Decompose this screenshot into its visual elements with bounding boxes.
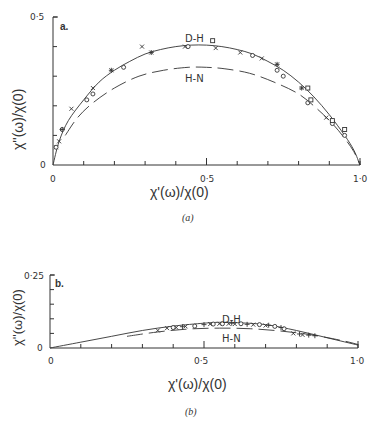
data-point-o	[193, 324, 197, 328]
data-point-s	[343, 127, 347, 131]
panel-b-axes	[50, 275, 358, 348]
panel-a-xlabel: χ'(ω)/χ(0)	[150, 184, 209, 200]
data-point-x	[91, 86, 95, 90]
panel-a-xtick-zero: 0	[50, 174, 56, 184]
panel-a-dh-label: D-H	[185, 33, 204, 44]
data-point-s	[306, 86, 310, 90]
panel-a-caption: (a)	[182, 212, 194, 223]
panel-b-ytick-zero: 0	[37, 343, 43, 353]
panel-a-axes	[53, 17, 360, 165]
panel-a-hn-label: H-N	[185, 73, 204, 84]
panel-b-xlabel: χ'(ω)/χ(0)	[168, 376, 227, 392]
data-point-o	[85, 98, 89, 102]
panel-a-plot: 0·5 0 0 0·5 1·0 a. D-H H-N	[30, 12, 368, 184]
panel-a-xtick-end: 1·0	[353, 174, 368, 184]
data-point-x	[324, 116, 328, 120]
panel-b-caption: (b)	[185, 406, 197, 417]
panel-b-xtick-zero: 0	[48, 356, 54, 366]
panel-b-plot: 0·25 0 0 0·5 1·0 b. D-H H-N	[24, 271, 365, 366]
data-point-+	[245, 322, 250, 327]
data-point-o	[273, 324, 277, 328]
panel-b-xtick-mid: 0·5	[194, 356, 208, 366]
data-point-s	[309, 98, 313, 102]
curve-h-n	[65, 67, 360, 165]
curve-d-h	[53, 45, 360, 165]
data-point-x	[140, 45, 144, 49]
data-point-o	[54, 145, 58, 149]
panel-b-dh-label: D-H	[222, 314, 241, 325]
panel-a-ytick-top: 0·5	[30, 12, 44, 22]
data-point-o	[343, 133, 347, 137]
panel-a-tag: a.	[60, 21, 69, 32]
data-point-o	[281, 74, 285, 78]
panel-b-tag: b.	[55, 278, 64, 289]
panel-b-ytick-top: 0·25	[24, 271, 44, 281]
data-point-o	[251, 53, 255, 57]
data-point-s	[330, 119, 334, 123]
data-point-o	[171, 326, 175, 330]
data-point-+	[60, 127, 65, 132]
data-point-o	[186, 45, 190, 49]
data-point-x	[69, 107, 73, 111]
panel-b-hn-label: H-N	[222, 333, 241, 344]
panel-b-xtick-end: 1·0	[350, 356, 365, 366]
data-point-x	[238, 51, 242, 55]
curve-h-n	[127, 328, 358, 344]
data-point-o	[257, 323, 261, 327]
panel-b-ylabel: χ''(ω)/χ(0)	[10, 289, 25, 346]
panel-a-ylabel: χ''(ω)/χ(0)	[10, 89, 26, 150]
data-point-x	[214, 46, 218, 50]
panel-a-data-points	[54, 39, 347, 150]
data-point-o	[211, 322, 215, 326]
data-point-o	[91, 92, 95, 96]
data-point-s	[211, 39, 215, 43]
panel-a-curves	[53, 45, 360, 165]
data-point-o	[122, 65, 126, 69]
data-point-o	[275, 68, 279, 72]
panel-a-xtick-mid: 0·5	[200, 174, 214, 184]
panel-a-ytick-zero: 0	[40, 160, 46, 170]
